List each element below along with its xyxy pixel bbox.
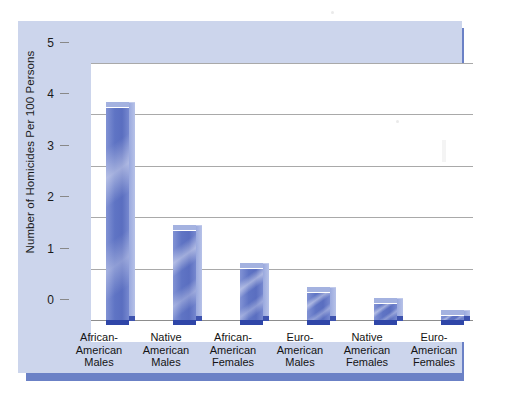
gridline-5 bbox=[91, 63, 473, 64]
bar-bottom-face bbox=[441, 320, 464, 325]
bar-side-face bbox=[330, 288, 336, 316]
panel-shadow-bottom bbox=[26, 372, 464, 381]
bar-bottom-bevel bbox=[330, 316, 336, 321]
gridline-4 bbox=[91, 114, 473, 115]
scan-speck bbox=[442, 140, 446, 162]
bar-side-face bbox=[263, 264, 269, 316]
bar-bottom-face bbox=[374, 320, 397, 325]
chart-panel: Number of Homicides Per 100 Persons 5 4 … bbox=[18, 21, 462, 373]
scan-speck bbox=[331, 11, 334, 14]
x-tick-label-euro-american-males: Euro- American Males bbox=[265, 331, 335, 369]
bar-front-face bbox=[173, 230, 196, 320]
bar-bottom-bevel bbox=[263, 316, 269, 321]
x-tick-label-african-american-females: African- American Females bbox=[198, 331, 268, 369]
bar-side-face bbox=[196, 226, 202, 316]
gridline-0-baseline bbox=[91, 320, 473, 321]
gridline-3 bbox=[91, 166, 473, 167]
bar-front-face bbox=[307, 292, 330, 320]
bar-bottom-face bbox=[173, 320, 196, 325]
bar-african-american-females[interactable] bbox=[240, 268, 263, 320]
bar-bottom-face bbox=[307, 320, 330, 325]
bar-bottom-face bbox=[106, 320, 129, 325]
x-tick-label-euro-american-females: Euro- American Females bbox=[399, 331, 469, 369]
gridline-1 bbox=[91, 269, 473, 270]
y-tick-label-0: 0 bbox=[26, 293, 54, 307]
bar-bottom-bevel bbox=[397, 316, 403, 321]
y-tick-label-2: 2 bbox=[26, 190, 54, 204]
bar-euro-american-males[interactable] bbox=[307, 292, 330, 320]
bar-native-american-males[interactable] bbox=[173, 230, 196, 320]
x-tick-label-native-american-females: Native American Females bbox=[332, 331, 402, 369]
bar-front-face bbox=[106, 107, 129, 320]
y-tick-mark-5 bbox=[60, 42, 69, 43]
bar-bottom-bevel bbox=[129, 316, 135, 321]
y-tick-mark-2 bbox=[60, 196, 69, 197]
bar-euro-american-females[interactable] bbox=[441, 315, 464, 320]
y-tick-mark-3 bbox=[60, 145, 69, 146]
bar-front-face bbox=[374, 303, 397, 320]
bar-side-face bbox=[397, 299, 403, 316]
bar-native-american-females[interactable] bbox=[374, 303, 397, 320]
y-tick-label-5: 5 bbox=[26, 36, 54, 50]
x-tick-label-african-american-males: African- American Males bbox=[64, 331, 134, 369]
bar-african-american-males[interactable] bbox=[106, 107, 129, 320]
bar-bottom-face bbox=[240, 320, 263, 325]
gridline-2 bbox=[91, 217, 473, 218]
bar-bottom-bevel bbox=[196, 316, 202, 321]
x-tick-label-native-american-males: Native American Males bbox=[131, 331, 201, 369]
y-tick-mark-0 bbox=[60, 299, 69, 300]
y-tick-mark-4 bbox=[60, 93, 69, 94]
y-tick-label-3: 3 bbox=[26, 139, 54, 153]
y-tick-label-4: 4 bbox=[26, 87, 54, 101]
bar-bottom-bevel bbox=[464, 316, 470, 321]
y-tick-mark-1 bbox=[60, 248, 69, 249]
bar-front-face bbox=[240, 268, 263, 320]
scan-speck bbox=[396, 120, 399, 123]
figure: Number of Homicides Per 100 Persons 5 4 … bbox=[0, 0, 514, 399]
plot-area bbox=[91, 63, 473, 342]
y-tick-label-1: 1 bbox=[26, 242, 54, 256]
bar-side-face bbox=[129, 103, 135, 316]
